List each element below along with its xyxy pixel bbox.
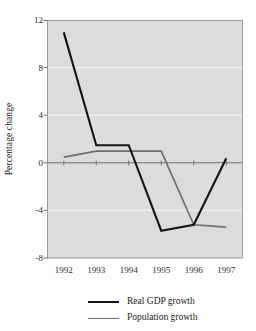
legend-item-population-growth: Population growth [0, 310, 256, 326]
legend-swatch-line-icon [88, 318, 119, 319]
legend-swatch-line-icon [88, 301, 119, 303]
x-tick-label: 1992 [55, 266, 73, 275]
chart-figure: Percentage change 12 8 4 0 -4 -8 [0, 0, 256, 331]
chart-legend: Real GDP growth Population growth [0, 294, 256, 326]
x-tick-label: 1993 [87, 266, 105, 275]
y-axis-ticks [44, 21, 48, 259]
legend-label: Real GDP growth [127, 297, 195, 307]
x-axis-tick-labels: 199219931994199519961997 [0, 266, 256, 280]
x-tick-label: 1994 [120, 266, 138, 275]
x-tick-label: 1995 [152, 266, 170, 275]
x-tick-label: 1997 [217, 266, 235, 275]
plot-background [48, 21, 243, 259]
legend-item-real-gdp-growth: Real GDP growth [0, 294, 256, 310]
x-tick-label: 1996 [185, 266, 203, 275]
legend-label: Population growth [127, 313, 197, 323]
plot-area [0, 0, 256, 331]
